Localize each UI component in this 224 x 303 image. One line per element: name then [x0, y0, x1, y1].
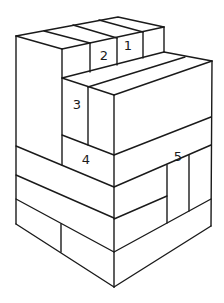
label-block-1: 1	[124, 38, 132, 53]
label-block-3: 3	[73, 97, 81, 112]
diagram-canvas: 1 2 3 4 5	[0, 0, 224, 303]
label-block-2: 2	[100, 48, 108, 63]
label-block-4: 4	[82, 152, 90, 167]
label-block-5: 5	[174, 149, 182, 164]
right-edge	[211, 61, 212, 226]
block-diagram: 1 2 3 4 5	[0, 0, 224, 303]
